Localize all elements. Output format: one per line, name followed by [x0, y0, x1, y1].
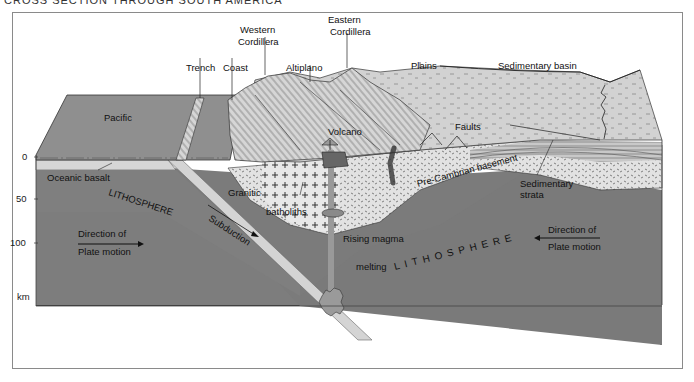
label-western-cordillera-2: Cordillera: [238, 36, 279, 47]
label-direction-right-1: Direction of: [548, 224, 596, 235]
label-eastern-cordillera-2: Cordillera: [330, 26, 371, 37]
label-melting: melting: [356, 261, 387, 272]
label-altiplano: Altiplano: [286, 62, 322, 73]
cross-section-diagram: 0 50 100 km Western Cordillera Eastern C…: [0, 0, 694, 382]
depth-tick-50: 50: [16, 193, 27, 204]
label-pacific: Pacific: [104, 112, 132, 123]
magma-chamber: [322, 152, 348, 168]
pacific-ocean-surface: [36, 95, 243, 160]
depth-unit: km: [17, 291, 30, 302]
label-faults: Faults: [455, 121, 481, 132]
label-coast: Coast: [223, 62, 248, 73]
label-sedimentary-basin: Sedimentary basin: [498, 60, 577, 71]
label-oceanic-basalt: Oceanic basalt: [47, 172, 110, 183]
rising-magma-conduit: [328, 150, 334, 312]
label-plains: Plains: [411, 60, 437, 71]
label-western-cordillera-1: Western: [240, 24, 275, 35]
label-sedimentary-strata-2: strata: [520, 189, 544, 200]
label-trench: Trench: [186, 62, 215, 73]
label-direction-left-2: Plate motion: [78, 246, 131, 257]
oceanic-basalt-layer: [36, 160, 176, 170]
label-granitic: Granitic: [228, 187, 261, 198]
label-volcano: Volcano: [328, 126, 362, 137]
label-sedimentary-strata-1: Sedimentary: [520, 178, 574, 189]
depth-tick-0: 0: [22, 151, 27, 162]
label-eastern-cordillera-1: Eastern: [328, 14, 361, 25]
label-rising-magma: Rising magma: [343, 233, 404, 244]
label-direction-right-2: Plate motion: [548, 241, 601, 252]
label-direction-left-1: Direction of: [78, 228, 126, 239]
depth-tick-100: 100: [10, 237, 26, 248]
label-batholiths: batholiths: [266, 206, 307, 217]
